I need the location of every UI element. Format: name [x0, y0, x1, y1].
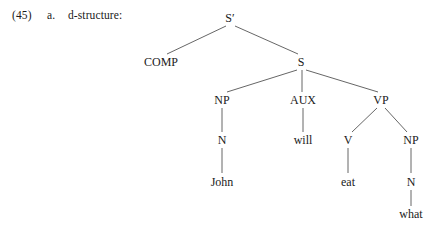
tree-node-np2: NP: [403, 134, 418, 146]
tree-node-sbar: S′: [225, 12, 235, 24]
example-number: (45): [12, 9, 32, 21]
tree-node-vp: VP: [373, 94, 388, 106]
tree-node-s: S: [298, 56, 305, 68]
tree-node-aux: AUX: [290, 94, 316, 106]
syntax-tree-figure: (45) a. d-structure: S′COMPSNPAUXVPNwill…: [0, 0, 441, 225]
example-letter: a.: [47, 9, 55, 21]
tree-edge-s-np1: [227, 70, 297, 92]
tree-node-n1: N: [218, 134, 227, 146]
tree-node-v: V: [344, 134, 353, 146]
tree-node-eat: eat: [341, 176, 355, 188]
tree-edge-vp-v: [352, 108, 377, 132]
tree-edge-sbar-comp: [167, 26, 226, 54]
example-title: d-structure:: [68, 9, 122, 21]
tree-node-comp: COMP: [144, 56, 178, 68]
tree-edges: [0, 0, 441, 225]
tree-edge-vp-np2: [385, 108, 407, 132]
tree-node-n2: N: [407, 176, 416, 188]
tree-node-np1: NP: [214, 94, 229, 106]
tree-node-will: will: [294, 134, 313, 146]
tree-edge-sbar-s: [235, 26, 298, 54]
tree-node-what: what: [399, 208, 422, 220]
tree-node-john: John: [211, 176, 234, 188]
tree-edge-s-vp: [306, 70, 378, 92]
